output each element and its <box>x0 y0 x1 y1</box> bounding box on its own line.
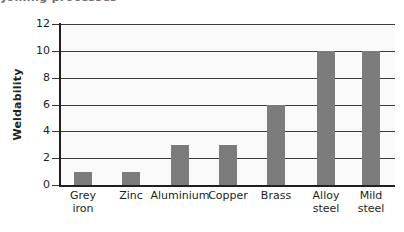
bar <box>317 51 335 185</box>
y-tick-0 <box>52 185 59 186</box>
x-axis-label: Mild steel <box>331 189 404 215</box>
y-tick-12 <box>52 24 59 25</box>
y-tick-10 <box>52 51 59 52</box>
bar <box>122 172 140 185</box>
y-tick-2 <box>52 158 59 159</box>
bars-group <box>59 24 395 185</box>
bar <box>74 172 92 185</box>
bar <box>171 145 189 185</box>
x-axis-line <box>59 185 395 187</box>
clipped-header-text: Joining processes <box>0 0 404 9</box>
y-tick-6 <box>52 105 59 106</box>
y-tick-4 <box>52 131 59 132</box>
y-axis-title: Weldability <box>6 24 30 185</box>
weldability-bar-chart-figure: Joining processes 024681012 Weldability … <box>0 0 404 232</box>
bar <box>267 105 285 186</box>
bar <box>219 145 237 185</box>
bar <box>362 51 380 185</box>
y-tick-8 <box>52 78 59 79</box>
